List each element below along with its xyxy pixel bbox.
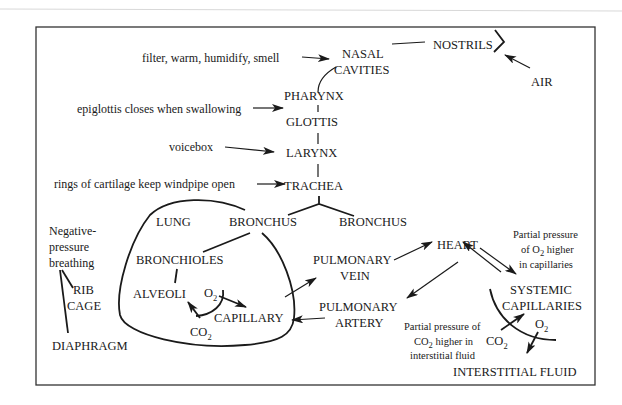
glottis-label: GLOTTIS [286, 115, 338, 129]
lung-o2-label: O2 [204, 286, 217, 303]
nasal-annotation: filter, warm, humidify, smell [142, 51, 280, 65]
svg-text:CAVITIES: CAVITIES [334, 63, 389, 77]
svg-text:of O2 higher: of O2 higher [521, 244, 574, 258]
svg-text:CAGE: CAGE [67, 299, 101, 313]
heart-to-artery-arrow [407, 262, 458, 298]
bronchus-right-label: BRONCHUS [339, 215, 407, 229]
svg-text:in capillaries: in capillaries [519, 259, 573, 270]
vein-to-heart-arrow [394, 242, 432, 260]
svg-text:PULMONARY: PULMONARY [319, 300, 398, 314]
svg-text:SYSTEMIC: SYSTEMIC [510, 283, 572, 297]
air-arrow [505, 55, 530, 68]
rib-cage-label: RIB CAGE [67, 283, 101, 313]
larynx-annotation: voicebox [169, 140, 213, 154]
interstitial-fluid-label: INTERSTITIAL FLUID [453, 365, 576, 379]
svg-text:O2: O2 [535, 317, 548, 334]
svg-text:CO2: CO2 [190, 325, 212, 342]
co2-partial-pressure-note: Partial pressure of CO2 higher in inters… [404, 321, 481, 361]
svg-text:breathing: breathing [49, 256, 94, 270]
trachea-branch [288, 196, 354, 216]
nostril-opening-icon [494, 30, 504, 52]
svg-text:CAPILLARIES: CAPILLARIES [502, 299, 582, 313]
rib-cage-connector [62, 270, 73, 288]
svg-text:CO2: CO2 [486, 334, 508, 351]
svg-text:VEIN: VEIN [340, 269, 370, 283]
svg-text:RIB: RIB [73, 283, 94, 297]
svg-text:O2: O2 [204, 286, 217, 303]
capillary-label: CAPILLARY [214, 311, 283, 325]
larynx-label: LARYNX [286, 146, 337, 160]
lung-label: LUNG [156, 215, 191, 229]
systemic-to-heart-arrow [463, 242, 501, 272]
svg-text:Partial pressure of: Partial pressure of [404, 321, 481, 332]
svg-text:pressure: pressure [49, 240, 89, 254]
svg-text:NASAL: NASAL [342, 47, 384, 61]
larynx-annotation-arrow [225, 147, 274, 152]
diaphragm-label: DIAPHRAGM [52, 339, 128, 353]
o2-to-capillary-arrow [219, 296, 246, 307]
o2-partial-pressure-note: Partial pressure of O2 higher in capilla… [513, 229, 578, 270]
pharynx-label: PHARYNX [284, 89, 344, 103]
nostrils-label: NOSTRILS [433, 38, 493, 52]
svg-text:AIR: AIR [531, 75, 553, 89]
svg-text:interstitial fluid: interstitial fluid [410, 350, 476, 361]
respiratory-diagram: AIR NOSTRILS NASAL CAVITIES filter, warm… [0, 0, 622, 405]
svg-text:ARTERY: ARTERY [335, 316, 384, 330]
systemic-o2-label: O2 [535, 317, 548, 334]
co2-to-capillaries-arrow [501, 314, 524, 330]
svg-text:Negative-: Negative- [49, 224, 96, 238]
svg-text:PULMONARY: PULMONARY [313, 253, 392, 267]
negative-pressure-breathing-label: Negative- pressure breathing [49, 224, 96, 270]
bronchioles-label: BRONCHIOLES [136, 253, 224, 267]
pulmonary-vein-label: PULMONARY VEIN [313, 253, 392, 283]
nostrils-connector [392, 42, 425, 44]
nasal-annotation-arrow [302, 57, 329, 59]
svg-text:CO2 higher in: CO2 higher in [414, 336, 474, 350]
co2-to-alveoli-arrow [188, 302, 200, 318]
bronchus-left-label: BRONCHUS [229, 215, 297, 229]
svg-text:Partial pressure: Partial pressure [513, 229, 578, 240]
artery-to-capillary-arrow [292, 318, 325, 320]
systemic-co2-label: CO2 [486, 334, 508, 351]
bronchioles-alveoli-connector [175, 269, 177, 283]
alveoli-label: ALVEOLI [133, 287, 186, 301]
pharynx-annotation: epiglottis closes when swallowing [77, 102, 241, 116]
pulmonary-artery-label: PULMONARY ARTERY [319, 300, 398, 330]
trachea-annotation: rings of cartilage keep windpipe open [54, 177, 235, 191]
trachea-label: TRACHEA [284, 179, 343, 193]
bronchus-bronchioles-connector [203, 233, 250, 252]
top-rule [0, 9, 622, 11]
air-label: AIR [531, 75, 553, 89]
lung-co2-label: CO2 [190, 325, 212, 342]
systemic-capillaries-label: SYSTEMIC CAPILLARIES [502, 283, 582, 313]
nasal-cavities-label: NASAL CAVITIES [334, 47, 389, 77]
